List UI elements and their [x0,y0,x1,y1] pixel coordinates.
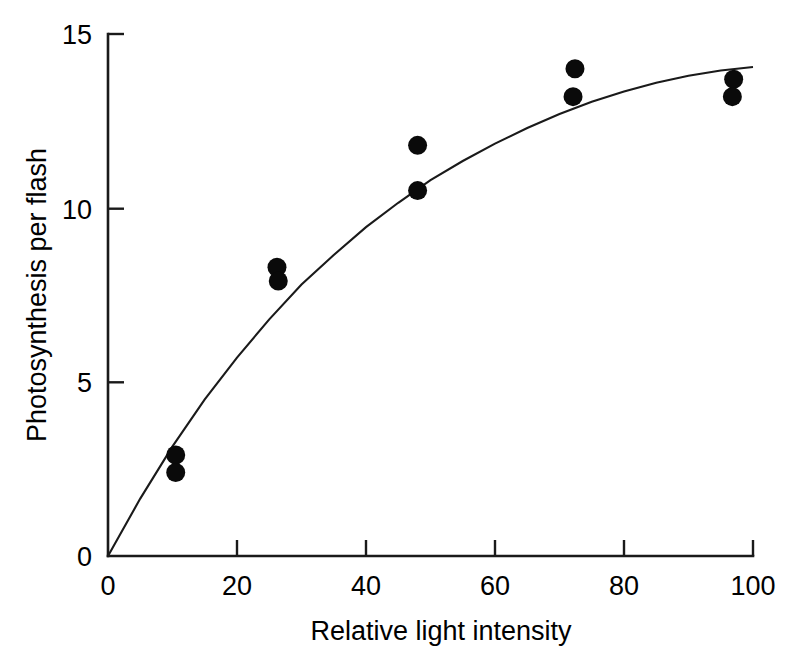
x-axis-title: Relative light intensity [310,616,572,646]
x-tick-label-100: 100 [730,571,775,601]
data-point [564,87,583,106]
y-tick-label-5: 5 [77,368,92,398]
data-point [408,136,427,155]
data-point [724,70,743,89]
x-tick-label-0: 0 [100,571,115,601]
data-point [565,59,584,78]
scatter-plot: 15 10 5 0 0 20 40 60 80 100 Relative lig… [0,0,798,657]
data-point [723,87,742,106]
data-point [166,463,185,482]
data-point [269,272,288,291]
y-axis-title: Photosynthesis per flash [22,148,52,442]
y-tick-label-15: 15 [62,20,92,50]
x-tick-label-20: 20 [222,571,252,601]
x-tick-label-60: 60 [480,571,510,601]
y-tick-label-10: 10 [62,195,92,225]
plot-background [0,0,798,657]
data-point [408,181,427,200]
chart-figure: 15 10 5 0 0 20 40 60 80 100 Relative lig… [0,0,798,657]
x-tick-label-80: 80 [609,571,639,601]
x-tick-label-40: 40 [351,571,381,601]
data-point [166,446,185,465]
y-tick-label-0: 0 [77,542,92,572]
